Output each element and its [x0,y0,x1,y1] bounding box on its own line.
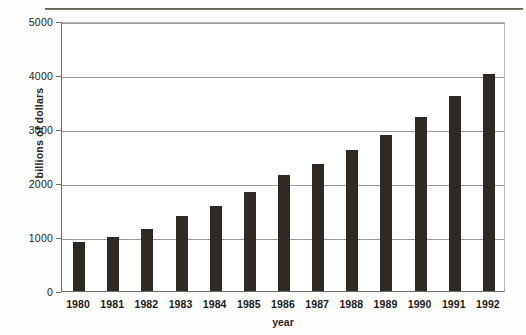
bar [449,96,461,291]
bar [176,216,188,291]
y-axis-tick-label: 0 [7,286,53,298]
bar [380,135,392,291]
y-axis-tick-label: 4000 [7,70,53,82]
y-axis-tick-mark [56,238,61,239]
bar [107,237,119,291]
y-axis-tick-mark [56,76,61,77]
bar [73,242,85,291]
y-axis-tick-label: 5000 [7,16,53,28]
y-axis-tick-label: 3000 [7,124,53,136]
x-axis-title: year [61,316,505,328]
y-axis-tick-mark [56,22,61,23]
x-axis: year 19801981198219831984198519861987198… [61,293,505,335]
gridline [62,131,504,132]
y-axis-tick-mark [56,184,61,185]
x-axis-tick-label: 1992 [468,298,508,310]
y-axis-tick-label: 1000 [7,232,53,244]
gridline [62,77,504,78]
bar [346,150,358,291]
bar [210,206,222,291]
bar [415,117,427,291]
gridline [62,23,504,24]
y-axis-tick-mark [56,130,61,131]
y-axis: billions of dollars 01000200030004000500… [8,22,61,293]
y-axis-tick-label: 2000 [7,178,53,190]
bar [483,74,495,291]
bar [244,192,256,291]
bar [141,229,153,291]
plot-area [61,22,505,292]
bar [278,175,290,291]
page-top-rule [45,8,523,10]
bar [312,164,324,291]
chart-page: billions of dollars 01000200030004000500… [0,0,526,335]
